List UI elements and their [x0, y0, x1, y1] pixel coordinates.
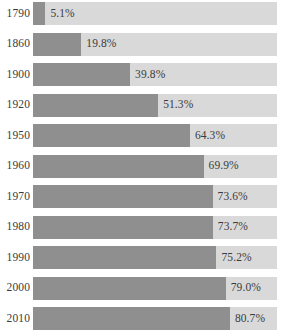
bar-track: 51.3% [33, 94, 277, 117]
bar-track: 75.2% [33, 246, 277, 269]
row-label-year: 1960 [0, 160, 30, 172]
bar-value-label: 51.3% [163, 99, 193, 111]
chart-row: 186019.8% [0, 33, 277, 56]
bar-value-label: 73.7% [218, 221, 248, 233]
chart-row: 201080.7% [0, 307, 277, 330]
row-label-year: 1900 [0, 69, 30, 81]
bar-track: 69.9% [33, 155, 277, 178]
bar-fill [33, 307, 230, 330]
bar-fill [33, 185, 213, 208]
bar-track: 73.6% [33, 185, 277, 208]
chart-row: 195064.3% [0, 124, 277, 147]
bar-fill [33, 277, 226, 300]
chart-row: 197073.6% [0, 185, 277, 208]
bar-fill [33, 216, 213, 239]
chart-row: 192051.3% [0, 94, 277, 117]
row-label-year: 1970 [0, 191, 30, 203]
bar-value-label: 79.0% [231, 282, 261, 294]
chart-row: 200079.0% [0, 277, 277, 300]
row-label-year: 2000 [0, 282, 30, 294]
row-label-year: 1920 [0, 99, 30, 111]
chart-row: 196069.9% [0, 155, 277, 178]
row-label-year: 1990 [0, 252, 30, 264]
bar-track: 80.7% [33, 307, 277, 330]
bar-value-label: 5.1% [50, 8, 74, 20]
bar-value-label: 80.7% [235, 313, 265, 325]
bar-track: 39.8% [33, 63, 277, 86]
bar-track: 5.1% [33, 2, 277, 25]
bar-fill [33, 94, 158, 117]
bar-chart: 17905.1%186019.8%190039.8%192051.3%19506… [0, 0, 282, 332]
bar-value-label: 73.6% [218, 191, 248, 203]
bar-value-label: 69.9% [209, 160, 239, 172]
row-label-year: 1950 [0, 130, 30, 142]
bar-value-label: 64.3% [195, 130, 225, 142]
row-label-year: 1860 [0, 38, 30, 50]
bar-fill [33, 2, 45, 25]
bar-fill [33, 63, 130, 86]
row-label-year: 2010 [0, 313, 30, 325]
bar-track: 73.7% [33, 216, 277, 239]
chart-row: 199075.2% [0, 246, 277, 269]
bar-track: 19.8% [33, 33, 277, 56]
chart-row: 198073.7% [0, 216, 277, 239]
bar-track: 79.0% [33, 277, 277, 300]
bar-value-label: 75.2% [221, 252, 251, 264]
bar-track: 64.3% [33, 124, 277, 147]
bar-fill [33, 155, 204, 178]
row-label-year: 1790 [0, 8, 30, 20]
bar-value-label: 39.8% [135, 69, 165, 81]
bar-fill [33, 246, 216, 269]
chart-row: 190039.8% [0, 63, 277, 86]
chart-row: 17905.1% [0, 2, 277, 25]
bar-fill [33, 124, 190, 147]
row-label-year: 1980 [0, 221, 30, 233]
bar-fill [33, 33, 81, 56]
bar-value-label: 19.8% [86, 38, 116, 50]
